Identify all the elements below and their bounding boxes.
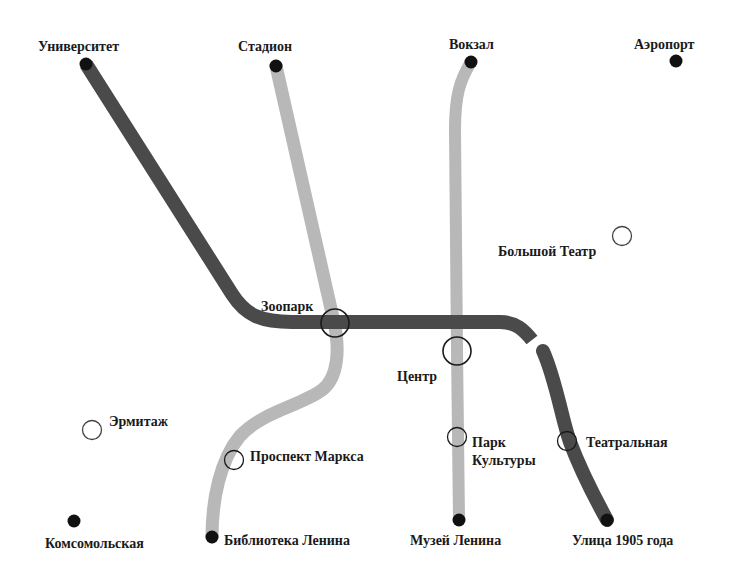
station-label-tsentr: Центр bbox=[397, 368, 437, 385]
station-label-ulitsa: Улица 1905 года bbox=[572, 532, 673, 549]
station-dot-komsomolskaya[interactable] bbox=[68, 515, 81, 528]
station-ring-ermitazh[interactable] bbox=[83, 421, 102, 440]
station-dot-stadion[interactable] bbox=[270, 60, 283, 73]
station-label-bolshoi: Большой Театр bbox=[498, 243, 596, 260]
station-label-park-line1: Парк bbox=[472, 434, 506, 451]
station-label-park-line2: Культуры bbox=[472, 452, 536, 469]
station-label-aeroport: Аэропорт bbox=[634, 36, 695, 53]
station-label-ermitazh: Эрмитаж bbox=[109, 413, 168, 430]
station-dot-biblioteka[interactable] bbox=[206, 531, 219, 544]
station-label-zoopark: Зоопарк bbox=[261, 298, 313, 315]
station-ring-bolshoi[interactable] bbox=[613, 227, 632, 246]
metro-map bbox=[0, 0, 738, 578]
station-label-prospekt: Проспект Маркса bbox=[250, 448, 364, 465]
station-dot-aeroport[interactable] bbox=[670, 55, 683, 68]
station-label-vokzal: Вокзал bbox=[449, 36, 494, 53]
station-label-komsomolskaya: Комсомольская bbox=[45, 535, 144, 552]
station-label-teatralnaya: Театральная bbox=[586, 434, 668, 451]
station-dot-vokzal[interactable] bbox=[465, 56, 478, 69]
station-label-biblioteka: Библиотека Ленина bbox=[224, 532, 350, 549]
station-label-stadion: Стадион bbox=[238, 38, 292, 55]
station-dot-muzei[interactable] bbox=[453, 514, 466, 527]
station-label-universitet: Университет bbox=[38, 38, 119, 55]
station-label-muzei: Музей Ленина bbox=[410, 532, 501, 549]
station-dot-ulitsa[interactable] bbox=[601, 514, 614, 527]
station-dot-universitet[interactable] bbox=[80, 58, 93, 71]
